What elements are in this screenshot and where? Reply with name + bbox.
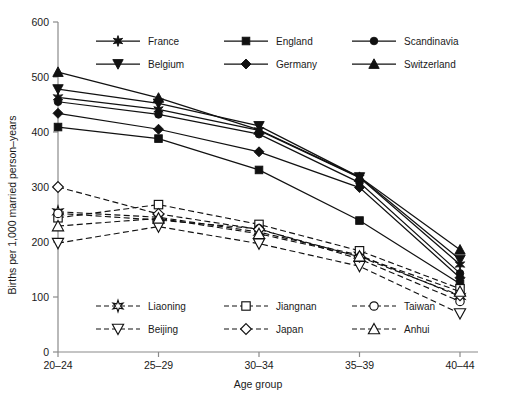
chart-container: 0100200300400500600 20–2425–2930–3435–39… [0, 0, 508, 405]
y-tick-label: 0 [43, 346, 49, 358]
legend-marker-jiangnan [242, 302, 250, 310]
y-tick-label: 200 [31, 236, 49, 248]
legend-label: Scandinavia [404, 36, 459, 47]
y-tick-label: 400 [31, 126, 49, 138]
data-point-england [155, 135, 163, 143]
data-point-scandinavia [155, 111, 163, 119]
legend-label: France [148, 36, 180, 47]
x-tick-label: 25–29 [144, 359, 173, 371]
legend-label: Beijing [148, 324, 178, 335]
legend-label: Belgium [148, 59, 184, 70]
y-tick-label: 500 [31, 71, 49, 83]
y-tick-label: 600 [31, 16, 49, 28]
data-point-scandinavia [54, 98, 62, 106]
legend-marker-scandinavia [370, 37, 378, 45]
legend-label: Liaoning [148, 301, 186, 312]
legend-label: England [276, 36, 313, 47]
legend-label: Japan [276, 324, 303, 335]
legend-label: Switzerland [404, 59, 456, 70]
y-tick-label: 300 [31, 181, 49, 193]
legend-label: Jiangnan [276, 301, 317, 312]
line-chart: 0100200300400500600 20–2425–2930–3435–39… [0, 0, 508, 405]
x-tick-label: 20–24 [43, 359, 72, 371]
y-axis-title: Births per 1,000 married person–years [6, 115, 18, 294]
x-tick-label: 40–44 [445, 359, 474, 371]
y-tick-label: 100 [31, 291, 49, 303]
x-tick-label: 30–34 [244, 359, 273, 371]
legend-marker-england [242, 37, 250, 45]
data-point-taiwan [54, 209, 62, 217]
legend-marker-taiwan [370, 302, 378, 310]
x-tick-label: 35–39 [345, 359, 374, 371]
x-axis-title: Age group [234, 378, 283, 390]
data-point-jiangnan [154, 200, 162, 208]
data-point-england [54, 123, 62, 131]
data-point-england [255, 166, 263, 174]
legend-label: Germany [276, 59, 317, 70]
legend-label: Taiwan [404, 301, 435, 312]
legend-label: Anhui [404, 324, 430, 335]
data-point-england [356, 217, 364, 225]
